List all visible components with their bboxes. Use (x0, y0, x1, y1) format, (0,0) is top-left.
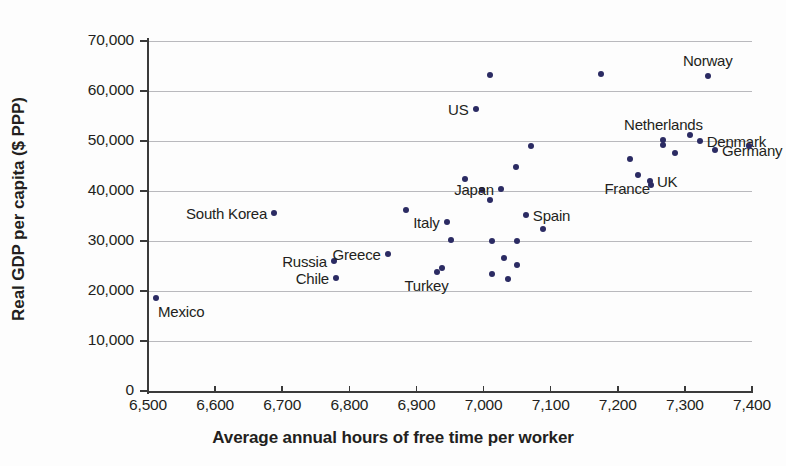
x-axis-tick (147, 386, 149, 393)
x-axis-tick (550, 386, 552, 393)
y-axis-tick-label: 60,000 (88, 81, 134, 99)
data-point (687, 132, 693, 138)
y-axis-tick (140, 240, 149, 242)
point-label-france: France (604, 180, 650, 197)
gridline (148, 341, 752, 342)
y-axis-tick-label: 70,000 (88, 31, 134, 49)
x-axis-tick (684, 386, 686, 393)
point-label-turkey: Turkey (404, 276, 448, 293)
data-point-japan (498, 186, 504, 192)
x-axis-tick-label: 6,800 (330, 396, 368, 414)
y-axis-tick (140, 190, 149, 192)
point-label-japan: Japan (454, 181, 494, 198)
data-point-norway (705, 73, 711, 79)
gridline (148, 191, 752, 192)
point-label-greece: Greece (333, 246, 381, 263)
data-point (540, 226, 546, 232)
data-point (513, 164, 519, 170)
point-label-italy: Italy (413, 214, 440, 231)
data-point-us (473, 106, 479, 112)
data-point (514, 262, 520, 268)
gridline (148, 91, 752, 92)
data-point (746, 143, 752, 149)
x-axis-tick (349, 386, 351, 393)
x-axis-tick-label: 7,400 (733, 396, 771, 414)
point-label-germany: Germany (722, 142, 782, 159)
data-point-chile (333, 275, 339, 281)
x-axis-tick (483, 386, 485, 393)
y-axis-tick (140, 40, 149, 42)
point-label-us: US (448, 100, 468, 117)
data-point (489, 238, 495, 244)
x-axis-tick-label: 7,300 (666, 396, 704, 414)
data-point-italy (444, 219, 450, 225)
point-label-norway: Norway (683, 52, 733, 69)
x-axis-tick (617, 386, 619, 393)
data-point-denmark (697, 138, 703, 144)
data-point (439, 265, 445, 271)
y-axis-tick (140, 340, 149, 342)
data-point-france (635, 172, 641, 178)
point-label-spain: Spain (533, 207, 570, 224)
point-label-south-korea: South Korea (186, 205, 267, 222)
data-point (660, 142, 666, 148)
point-label-uk: UK (657, 173, 677, 190)
data-point (627, 156, 633, 162)
x-axis-title: Average annual hours of free time per wo… (0, 428, 786, 448)
x-axis-tick (416, 386, 418, 393)
scatter-chart: 010,00020,00030,00040,00050,00060,00070,… (0, 0, 786, 466)
x-axis-tick-label: 6,700 (263, 396, 301, 414)
data-point-mexico (153, 295, 159, 301)
y-axis-tick (140, 290, 149, 292)
data-point (528, 143, 534, 149)
gridline (148, 41, 752, 42)
x-axis-tick-label: 6,900 (398, 396, 436, 414)
x-axis-tick-label: 7,100 (532, 396, 570, 414)
x-axis-tick (281, 386, 283, 393)
data-point (501, 255, 507, 261)
x-axis-line (147, 391, 753, 393)
y-axis-tick (140, 140, 149, 142)
data-point (448, 237, 454, 243)
data-point-germany (712, 147, 718, 153)
x-axis-tick-label: 6,500 (129, 396, 167, 414)
point-label-russia: Russia (282, 253, 327, 270)
y-axis-tick-label: 40,000 (88, 181, 134, 199)
x-axis-tick-label: 6,600 (196, 396, 234, 414)
data-point (487, 72, 493, 78)
point-label-netherlands: Netherlands (624, 116, 703, 133)
data-point (487, 197, 493, 203)
y-axis-title: Real GDP per capita ($ PPP) (9, 39, 29, 379)
point-label-mexico: Mexico (158, 303, 204, 320)
y-axis-tick-label: 10,000 (88, 331, 134, 349)
data-point (598, 71, 604, 77)
y-axis-tick-label: 30,000 (88, 231, 134, 249)
data-point-south-korea (271, 210, 277, 216)
data-point (514, 238, 520, 244)
data-point-greece (385, 251, 391, 257)
y-axis-tick-label: 20,000 (88, 281, 134, 299)
data-point (403, 207, 409, 213)
y-axis-tick-label: 50,000 (88, 131, 134, 149)
y-axis-tick (140, 90, 149, 92)
data-point (505, 276, 511, 282)
x-axis-tick-label: 7,200 (599, 396, 637, 414)
x-axis-tick-label: 7,000 (465, 396, 503, 414)
data-point (672, 150, 678, 156)
x-axis-tick (751, 386, 753, 393)
gridline (148, 291, 752, 292)
data-point (648, 182, 654, 188)
point-label-chile: Chile (296, 269, 329, 286)
data-point (489, 271, 495, 277)
data-point-spain (523, 212, 529, 218)
x-axis-tick (214, 386, 216, 393)
